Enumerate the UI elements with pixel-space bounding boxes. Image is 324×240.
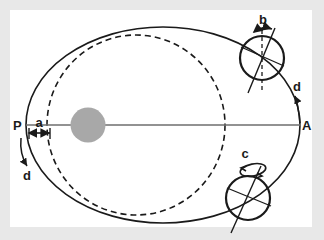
sun-disk — [71, 108, 106, 143]
precession-loop-arrowhead — [241, 166, 246, 171]
earth-lower-globe — [226, 176, 270, 220]
direction-arrow-left — [21, 138, 27, 166]
label-precession: c — [241, 146, 248, 161]
label-aphelion: A — [302, 118, 312, 133]
figure-screenshot: P A a b c d d — [0, 0, 324, 240]
earth-upper-equator-line — [241, 47, 284, 66]
label-perihelion: P — [13, 118, 22, 133]
label-eccentricity: a — [35, 115, 43, 130]
label-obliquity: b — [259, 12, 267, 27]
obliquity-angle-arrow — [254, 28, 272, 32]
label-direction-right: d — [293, 79, 301, 94]
label-direction-left: d — [23, 168, 31, 183]
orbital-cycles-diagram: P A a b c d d — [0, 0, 324, 240]
